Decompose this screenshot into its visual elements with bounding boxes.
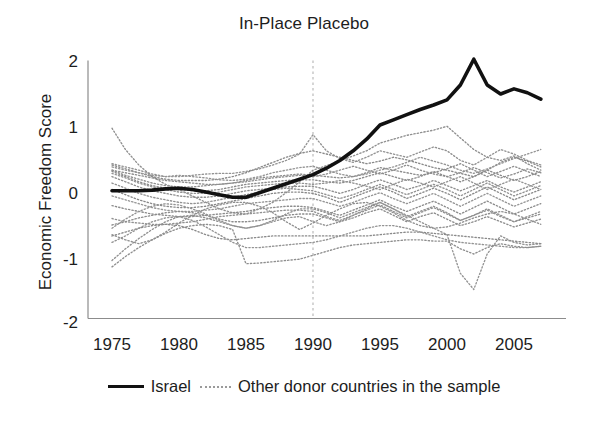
series-line-donor [112, 224, 541, 267]
legend-item-donors: Other donor countries in the sample [200, 377, 500, 396]
solid-line-icon [108, 385, 144, 388]
legend-label-donors: Other donor countries in the sample [238, 377, 500, 396]
series-line-donor [112, 183, 541, 204]
series-line-donor [112, 193, 541, 212]
chart-figure: In-Place Placebo Economic Freedom Score … [0, 0, 608, 425]
series-line-donor [112, 224, 541, 243]
plot-area [0, 0, 608, 425]
donor-country-lines [112, 126, 541, 289]
legend-label-israel: Israel [151, 377, 191, 396]
dotted-line-icon [200, 386, 231, 388]
legend-item-israel: Israel [108, 377, 191, 396]
chart-legend: Israel Other donor countries in the samp… [0, 377, 608, 396]
